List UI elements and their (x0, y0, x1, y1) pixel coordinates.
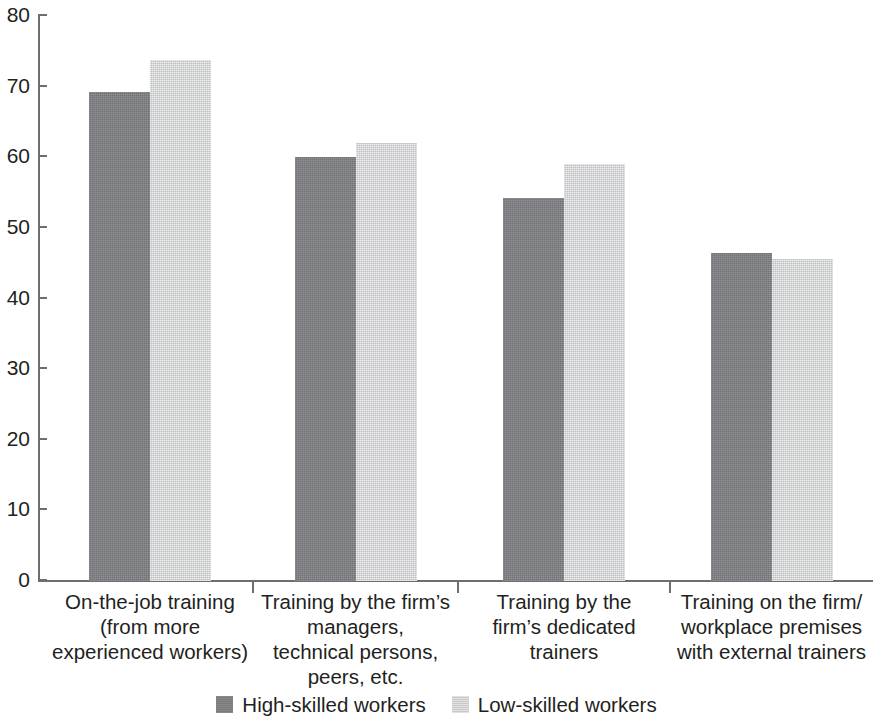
plot-area (38, 15, 873, 581)
legend-swatch-icon (216, 696, 233, 713)
y-axis-tick-label: 50 (0, 216, 30, 237)
legend-item: Low-skilled workers (452, 694, 657, 715)
category-label: Training on the firm/workplace premisesw… (670, 589, 873, 664)
y-axis-tick-label: 10 (0, 498, 30, 519)
bar (295, 157, 356, 581)
y-axis-tick-label: 40 (0, 287, 30, 308)
y-axis-tick-label: 60 (0, 145, 30, 166)
category-label-line: (from more (47, 614, 253, 639)
category-label-line: On-the-job training (47, 589, 253, 614)
category-label-line: with external trainers (670, 639, 873, 664)
bar-chart: 80706050403020100 On-the-job training(fr… (0, 0, 873, 724)
y-axis-tick-label: 0 (0, 569, 30, 590)
category-label-line: managers, (253, 614, 458, 639)
bar (503, 198, 564, 581)
bar (711, 253, 772, 581)
bar (772, 259, 833, 581)
legend-label: High-skilled workers (242, 694, 425, 715)
bar (356, 143, 417, 581)
legend-label: Low-skilled workers (478, 694, 657, 715)
bar (89, 92, 150, 581)
y-axis-tick-label: 70 (0, 75, 30, 96)
category-label: Training by the firm’smanagers,technical… (253, 589, 458, 689)
category-label-line: Training by the firm’s (253, 589, 458, 614)
legend-item: High-skilled workers (216, 694, 425, 715)
category-label-line: technical persons, (253, 639, 458, 664)
legend: High-skilled workersLow-skilled workers (0, 694, 873, 715)
category-label-line: workplace premises (670, 614, 873, 639)
legend-swatch-icon (452, 696, 469, 713)
y-axis-tick-label: 20 (0, 428, 30, 449)
category-label-line: firm’s dedicated (458, 614, 670, 639)
category-label-line: Training by the (458, 589, 670, 614)
category-label-line: trainers (458, 639, 670, 664)
y-axis-tick-label: 80 (0, 4, 30, 25)
category-label: Training by thefirm’s dedicatedtrainers (458, 589, 670, 664)
category-label: On-the-job training(from moreexperienced… (47, 589, 253, 664)
category-label-line: peers, etc. (253, 664, 458, 689)
bar (150, 60, 211, 581)
bar (564, 164, 625, 581)
category-label-line: Training on the firm/ (670, 589, 873, 614)
category-label-line: experienced workers) (47, 639, 253, 664)
y-axis-tick-label: 30 (0, 357, 30, 378)
